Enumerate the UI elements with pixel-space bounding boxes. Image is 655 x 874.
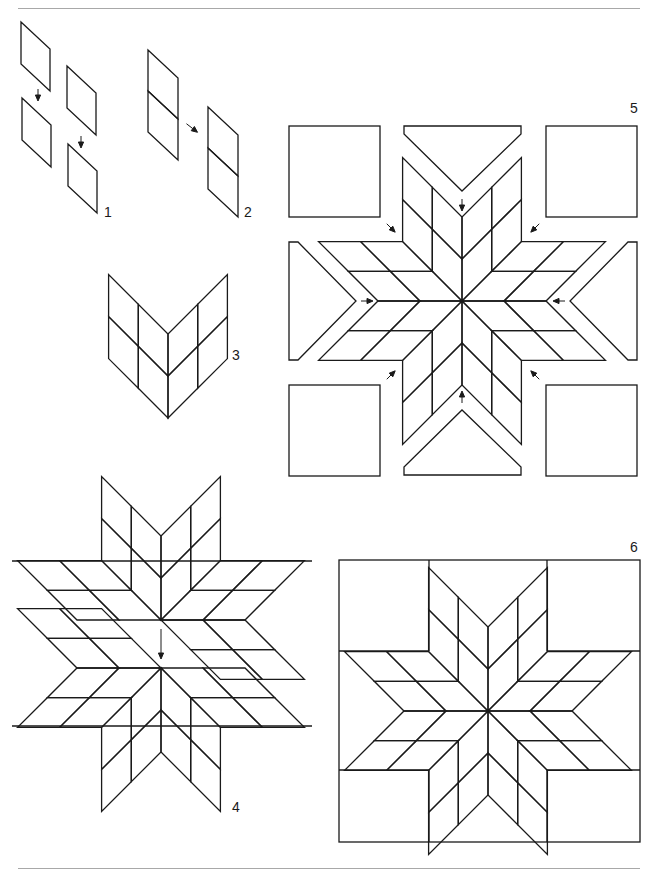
diamond-piece	[138, 346, 168, 418]
diamond-piece	[148, 50, 178, 119]
diamond-piece	[518, 741, 548, 813]
diamond-piece	[60, 698, 132, 728]
diamond-piece	[161, 668, 233, 698]
arrow-icon	[367, 298, 373, 303]
diamond-piece	[432, 301, 462, 373]
diamond-piece	[319, 331, 391, 361]
arrow-icon	[459, 391, 464, 397]
diamond-piece	[518, 741, 590, 771]
diamond-piece	[390, 271, 462, 301]
diamond-piece	[462, 229, 492, 301]
arrow-icon	[191, 127, 197, 133]
diamond-piece	[161, 710, 191, 782]
diamond-piece	[504, 301, 576, 331]
diamond-piece	[233, 698, 305, 728]
corner-square	[546, 385, 637, 476]
diamond-piece	[191, 698, 221, 770]
diamond-piece	[488, 711, 518, 783]
diamond-piece	[488, 639, 518, 711]
diamond-piece	[429, 741, 459, 813]
step-label-5: 5	[630, 101, 638, 115]
diamond-piece	[208, 148, 238, 217]
diamond-piece	[504, 271, 576, 301]
diamond-piece	[492, 331, 522, 403]
diamond-piece	[387, 652, 459, 682]
diamond-piece	[390, 301, 462, 331]
diamond-piece	[191, 561, 263, 591]
diamond-piece	[18, 561, 90, 591]
diamond-piece	[488, 597, 518, 669]
diamond-piece	[458, 753, 488, 825]
diamond-piece	[161, 620, 233, 650]
arrow-icon	[387, 375, 391, 379]
diamond-piece	[387, 741, 459, 771]
diamond-piece	[191, 519, 221, 591]
arrow-icon	[78, 142, 83, 148]
diamond-piece	[462, 301, 534, 331]
arrow-icon	[459, 205, 464, 211]
diamond-piece	[518, 568, 548, 640]
step-1-diamonds	[21, 22, 97, 213]
diamond-piece	[131, 548, 161, 620]
diamond-piece	[22, 98, 51, 167]
diamond-piece	[345, 652, 417, 682]
step-6-completed-block	[339, 560, 640, 854]
diamond-piece	[203, 620, 275, 650]
diamond-piece	[345, 741, 417, 771]
diamond-piece	[492, 331, 564, 361]
corner-square	[289, 126, 380, 217]
corner-square	[546, 126, 637, 217]
diamond-piece	[518, 652, 590, 682]
diamond-piece	[161, 668, 191, 740]
diamond-piece	[191, 477, 221, 549]
diamond-piece	[492, 373, 522, 445]
arrow-icon	[35, 95, 40, 101]
diamond-piece	[361, 331, 433, 361]
diamond-piece	[462, 343, 492, 415]
diamond-piece	[60, 561, 132, 591]
diamond-piece	[462, 271, 534, 301]
diamond-piece	[109, 275, 139, 347]
step-4-star-halves	[12, 477, 312, 812]
diamond-piece	[416, 681, 488, 711]
diamond-piece	[432, 343, 462, 415]
diamond-piece	[462, 187, 492, 259]
diamond-piece	[348, 271, 420, 301]
arrow-down-icon	[158, 653, 163, 659]
step-2-strips	[148, 50, 238, 217]
diamond-piece	[403, 200, 433, 272]
diamond-piece	[161, 590, 233, 620]
diamond-piece	[89, 668, 161, 698]
diamond-piece	[560, 652, 632, 682]
diamond-piece	[161, 548, 191, 620]
block-border	[339, 560, 640, 842]
diamond-piece	[403, 331, 433, 403]
diamond-piece	[361, 242, 433, 272]
diamond-piece	[458, 711, 488, 783]
step-label-3: 3	[232, 348, 240, 362]
diamond-piece	[191, 698, 263, 728]
diamond-piece	[67, 66, 96, 135]
diamond-piece	[492, 242, 564, 272]
corner-square	[289, 385, 380, 476]
diamond-piece	[191, 740, 221, 812]
diamond-piece	[492, 200, 522, 272]
diamond-piece	[429, 783, 459, 855]
diamond-piece	[518, 610, 548, 682]
step-label-6: 6	[630, 540, 638, 554]
side-triangle-right	[570, 242, 637, 360]
diamond-piece	[233, 561, 305, 591]
diamond-piece	[198, 275, 228, 347]
diamond-piece	[374, 711, 446, 741]
diamond-piece	[432, 187, 462, 259]
diamond-piece	[131, 506, 161, 578]
arrow-icon	[186, 124, 192, 129]
diamond-piece	[492, 158, 522, 230]
diamond-piece	[403, 373, 433, 445]
diamond-piece	[198, 317, 228, 389]
diamond-piece	[429, 568, 459, 640]
diamond-piece	[168, 304, 198, 376]
diamond-piece	[109, 317, 139, 389]
diamond-piece	[458, 639, 488, 711]
diamond-piece	[203, 590, 275, 620]
